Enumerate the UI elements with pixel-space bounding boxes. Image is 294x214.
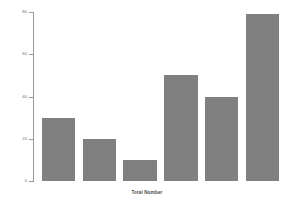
bar bbox=[42, 118, 75, 181]
bar-chart: 020406080 Total Number bbox=[0, 0, 294, 214]
bar bbox=[83, 139, 116, 181]
bar bbox=[246, 14, 279, 181]
bar-series bbox=[0, 0, 294, 214]
bar bbox=[164, 75, 197, 181]
bar bbox=[123, 160, 156, 181]
bar bbox=[205, 97, 238, 182]
x-axis-title: Total Number bbox=[0, 190, 294, 196]
